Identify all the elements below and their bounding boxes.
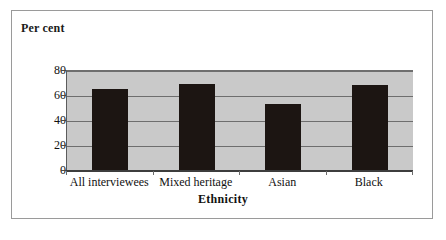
y-tick-label-0: 0 xyxy=(26,163,66,178)
x-axis-title: Ethnicity xyxy=(0,192,446,207)
y-axis-tick-group: 020406080 xyxy=(20,70,66,170)
x-tick-mark-3 xyxy=(326,171,327,175)
y-axis-title: Per cent xyxy=(21,21,65,36)
x-category-label-1: Mixed heritage xyxy=(159,175,232,190)
x-tick-mark-2 xyxy=(239,171,240,175)
y-tick-label-80: 80 xyxy=(26,63,66,78)
plot-area xyxy=(66,70,413,171)
x-tick-mark-0 xyxy=(66,171,67,175)
bar-asian[interactable] xyxy=(265,104,301,172)
x-tick-mark-1 xyxy=(153,171,154,175)
bar-mixed-heritage[interactable] xyxy=(179,84,215,172)
gridline-80 xyxy=(67,71,413,72)
x-tick-mark-4 xyxy=(412,171,413,175)
bar-all-interviewees[interactable] xyxy=(92,89,128,172)
gridline-0 xyxy=(67,171,413,172)
y-tick-label-40: 40 xyxy=(26,113,66,128)
x-category-label-0: All interviewees xyxy=(70,175,149,190)
x-category-label-2: Asian xyxy=(268,175,296,190)
y-tick-label-20: 20 xyxy=(26,138,66,153)
bar-black[interactable] xyxy=(352,85,388,171)
x-category-label-3: Black xyxy=(355,175,383,190)
y-tick-label-60: 60 xyxy=(26,88,66,103)
plot-inner xyxy=(67,71,413,171)
